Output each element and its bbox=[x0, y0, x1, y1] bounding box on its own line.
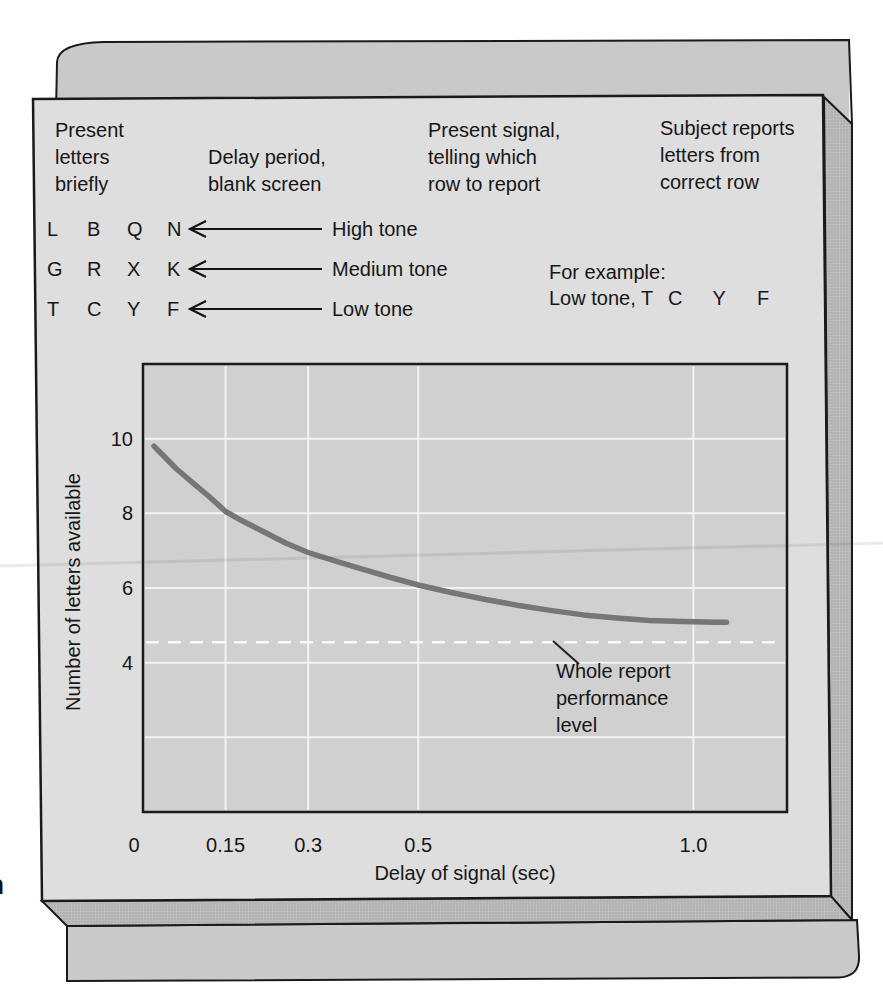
tone-label-medium: Medium tone bbox=[332, 257, 448, 281]
step-header-subject-reports: Subject reports letters from correct row bbox=[660, 115, 795, 196]
example-label: For example: bbox=[549, 259, 666, 286]
letter: R bbox=[87, 257, 127, 281]
letter: X bbox=[127, 257, 167, 281]
letter-row-high: LBQN bbox=[47, 217, 207, 241]
x-tick-label: 0 bbox=[128, 833, 139, 857]
y-tick-label: 10 bbox=[91, 427, 133, 451]
letter: N bbox=[167, 217, 207, 241]
letter: T bbox=[47, 297, 87, 321]
example-prefix: Low tone, T bbox=[549, 287, 653, 309]
example-report-row: Low tone, TCYF bbox=[549, 286, 785, 310]
step-header-delay-period: Delay period, blank screen bbox=[208, 144, 326, 198]
letter: L bbox=[47, 217, 87, 241]
letter-row-medium: GRXK bbox=[47, 257, 207, 281]
reported-letter: C bbox=[653, 286, 697, 310]
x-tick-label: 0.15 bbox=[206, 833, 245, 857]
x-tick-label: 1.0 bbox=[680, 833, 708, 857]
clipped-margin-text: l bbox=[0, 927, 1, 955]
letter: Q bbox=[127, 217, 167, 241]
letter: B bbox=[87, 217, 127, 241]
y-tick-label: 6 bbox=[91, 576, 133, 600]
letter: C bbox=[87, 297, 127, 321]
bottom-sheet bbox=[67, 920, 859, 981]
figure-stage: Present letters briefly Delay period, bl… bbox=[0, 0, 883, 1005]
tone-label-low: Low tone bbox=[332, 297, 413, 321]
y-tick-label: 4 bbox=[91, 651, 133, 675]
letter-row-low: TCYF bbox=[47, 297, 207, 321]
letter: K bbox=[167, 257, 207, 281]
step-header-present-letters: Present letters briefly bbox=[55, 117, 124, 198]
reported-letter: Y bbox=[697, 286, 741, 310]
reported-letter: F bbox=[741, 286, 785, 310]
step-header-present-signal: Present signal, telling which row to rep… bbox=[428, 117, 560, 198]
x-tick-label: 0.3 bbox=[294, 833, 322, 857]
letter: G bbox=[47, 257, 87, 281]
y-axis-title: Number of letters available bbox=[60, 473, 87, 711]
letter: F bbox=[167, 297, 207, 321]
clipped-margin-text: n bbox=[0, 871, 4, 899]
x-tick-label: 0.5 bbox=[404, 833, 432, 857]
letter: Y bbox=[127, 297, 167, 321]
x-axis-title: Delay of signal (sec) bbox=[374, 860, 555, 887]
tone-label-high: High tone bbox=[332, 217, 418, 241]
whole-report-annotation: Whole report performance level bbox=[556, 658, 671, 739]
y-tick-label: 8 bbox=[91, 501, 133, 525]
